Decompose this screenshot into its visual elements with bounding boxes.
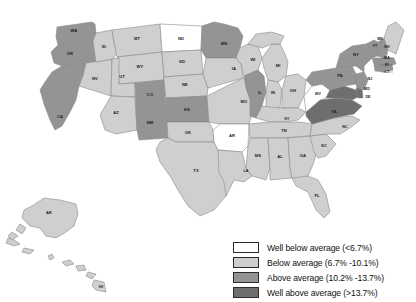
state-AK <box>8 198 78 240</box>
state-label-PA: PA <box>337 73 343 78</box>
state-label-TX: TX <box>193 168 199 173</box>
legend-item: Well below average (<6.7%) <box>233 240 413 255</box>
figure-root: WA OR CA NV ID MT WY UT AZ CO NM ND SD N… <box>0 0 416 302</box>
state-label-SD: SD <box>179 59 185 64</box>
legend-label-well-below: Well below average (<6.7%) <box>267 243 372 253</box>
state-label-AL: AL <box>277 154 283 159</box>
legend-label-below: Below average (6.7% -10.1%) <box>267 258 378 268</box>
state-label-VA: VA <box>331 109 337 114</box>
legend-swatch-above <box>233 272 259 283</box>
state-label-WI: WI <box>250 57 255 62</box>
state-label-OR: OR <box>67 51 73 56</box>
state-FL <box>292 176 330 218</box>
state-label-ID: ID <box>102 44 106 49</box>
state-label-VT: VT <box>373 44 378 48</box>
legend-swatch-well-above <box>233 287 259 298</box>
map-legend: Well below average (<6.7%) Below average… <box>233 240 413 300</box>
state-label-NE: NE <box>182 82 188 87</box>
legend-swatch-well-below <box>233 242 259 253</box>
state-KY <box>256 106 306 122</box>
state-label-IA: IA <box>232 66 236 71</box>
state-AZ <box>100 96 137 134</box>
state-label-AK: AK <box>46 210 52 215</box>
legend-swatch-below <box>233 257 259 268</box>
state-label-ME: ME <box>377 37 383 41</box>
state-label-NM: NM <box>147 120 154 125</box>
state-label-AR: AR <box>229 133 235 138</box>
state-label-MO: MO <box>241 99 249 104</box>
state-label-MS: MS <box>255 153 262 158</box>
legend-item: Below average (6.7% -10.1%) <box>233 255 413 270</box>
state-label-WY: WY <box>137 64 144 69</box>
state-label-ND: ND <box>178 36 184 41</box>
state-label-WA: WA <box>71 28 78 33</box>
state-label-OK: OK <box>185 130 191 135</box>
state-label-LA: LA <box>244 169 249 173</box>
state-label-MI: MI <box>276 63 281 68</box>
state-label-GA: GA <box>300 153 306 158</box>
state-label-KS: KS <box>184 107 190 112</box>
legend-label-above: Above average (10.2% -13.7%) <box>267 273 384 283</box>
state-label-IL: IL <box>258 90 262 95</box>
state-label-NC: NC <box>342 125 348 129</box>
legend-label-well-above: Well above average (>13.7%) <box>267 288 378 298</box>
state-label-CA: CA <box>57 114 63 119</box>
state-IN <box>266 80 282 110</box>
state-HI <box>48 254 106 292</box>
state-label-NV: NV <box>92 76 98 81</box>
state-label-OH: OH <box>290 88 296 93</box>
state-label-WV: WV <box>315 92 321 96</box>
state-label-HI: HI <box>99 284 103 289</box>
state-label-NJ: NJ <box>368 77 373 81</box>
state-label-UT: UT <box>119 74 125 79</box>
state-label-NY: NY <box>353 52 359 57</box>
state-AR <box>213 124 249 152</box>
legend-item: Above average (10.2% -13.7%) <box>233 270 413 285</box>
state-label-CO: CO <box>147 92 154 97</box>
state-label-NH: NH <box>384 45 390 49</box>
state-label-MD: MD <box>364 87 370 91</box>
state-label-AZ: AZ <box>113 110 119 115</box>
legend-item: Well above average (>13.7%) <box>233 285 413 300</box>
state-label-KY: KY <box>284 117 290 121</box>
state-label-MT: MT <box>134 36 141 41</box>
state-label-MN: MN <box>221 41 228 46</box>
state-label-TN: TN <box>281 128 287 133</box>
state-label-FL: FL <box>314 193 320 198</box>
state-label-SC: SC <box>321 143 327 148</box>
state-label-DE: DE <box>365 95 371 99</box>
state-MN <box>201 22 243 58</box>
state-AK-aleutians <box>6 238 34 254</box>
state-label-IN: IN <box>271 90 275 95</box>
state-CA <box>40 63 86 130</box>
